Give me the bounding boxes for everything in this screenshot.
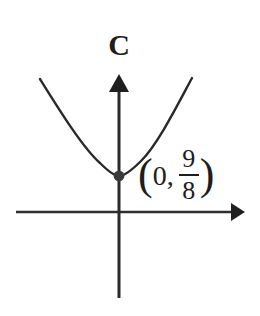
fraction-denominator: 8 <box>180 177 197 204</box>
parabola-figure: C ( 0 , 9 8 ) <box>0 0 260 316</box>
fraction-nine-eighths: 9 8 <box>179 146 199 204</box>
coordinate-comma: , <box>167 162 174 190</box>
curve-label-c: C <box>0 30 238 60</box>
open-paren: ( <box>138 156 153 194</box>
vertex-coordinate-label: ( 0 , 9 8 ) <box>138 147 214 205</box>
vertex-point-marker <box>114 171 125 182</box>
close-paren: ) <box>200 156 215 194</box>
fraction-numerator: 9 <box>180 146 197 173</box>
coordinate-x-value: 0 <box>153 162 167 190</box>
